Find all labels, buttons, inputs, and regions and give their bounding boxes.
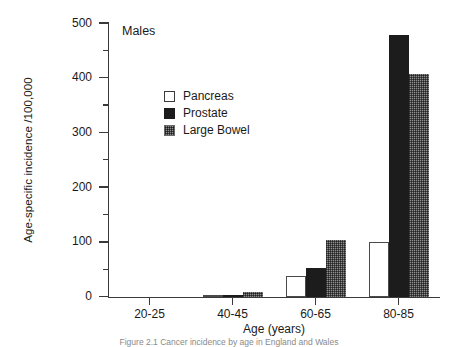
plot-area xyxy=(108,23,440,297)
legend-label-large-bowel: Large Bowel xyxy=(183,123,250,137)
y-axis-tick-major xyxy=(99,22,109,23)
x-axis-tick xyxy=(149,297,150,305)
y-axis-tick-major xyxy=(99,241,109,242)
legend-swatch-prostate xyxy=(164,108,175,119)
legend-swatch-large-bowel xyxy=(164,125,175,136)
y-axis-tick-minor xyxy=(103,104,109,105)
bar-bowel xyxy=(326,240,346,297)
y-axis-tick-minor xyxy=(103,269,109,270)
legend-item-prostate: Prostate xyxy=(164,106,250,121)
bar-bowel xyxy=(409,74,429,297)
x-axis-title: Age (years) xyxy=(108,322,440,336)
bar-pancreas xyxy=(203,295,223,297)
y-axis-tick-major xyxy=(99,186,109,187)
legend-label-pancreas: Pancreas xyxy=(183,89,234,103)
chart-legend: Pancreas Prostate Large Bowel xyxy=(164,89,250,140)
x-axis-tick-label: 40-45 xyxy=(193,307,273,321)
bar-prostate xyxy=(306,268,326,297)
x-axis-tick xyxy=(232,297,233,305)
x-axis-tick xyxy=(315,297,316,305)
y-axis-tick-major xyxy=(99,132,109,133)
y-axis-tick-label: 200 xyxy=(56,181,92,193)
y-axis-tick-label: 400 xyxy=(56,71,92,83)
x-axis-tick-label: 20-25 xyxy=(110,307,190,321)
chart-figure: Age-specific incidence /100,000 01002003… xyxy=(0,0,458,347)
y-axis-tick-major xyxy=(99,296,109,297)
x-axis-tick xyxy=(398,297,399,305)
x-axis-tick-label: 60-65 xyxy=(276,307,356,321)
y-axis-tick-labels: 0100200300400500 xyxy=(56,0,92,347)
y-axis-tick-major xyxy=(99,77,109,78)
y-axis-title: Age-specific incidence /100,000 xyxy=(22,23,40,297)
x-axis-tick-label: 80-85 xyxy=(359,307,439,321)
legend-label-prostate: Prostate xyxy=(183,106,228,120)
legend-item-large-bowel: Large Bowel xyxy=(164,123,250,138)
y-axis-tick-minor xyxy=(103,50,109,51)
legend-item-pancreas: Pancreas xyxy=(164,89,250,104)
y-axis-tick-minor xyxy=(103,214,109,215)
legend-swatch-pancreas xyxy=(164,91,175,102)
figure-caption: Figure 2.1 Cancer incidence by age in En… xyxy=(0,337,458,347)
y-axis-tick-label: 300 xyxy=(56,126,92,138)
y-axis-tick-label: 500 xyxy=(56,17,92,29)
y-axis-tick-label: 0 xyxy=(56,290,92,302)
y-axis-tick-minor xyxy=(103,159,109,160)
panel-label: Males xyxy=(122,24,155,38)
bar-bowel xyxy=(243,292,263,297)
y-axis-tick-label: 100 xyxy=(56,235,92,247)
bar-pancreas xyxy=(286,276,306,297)
bar-prostate xyxy=(389,35,409,297)
bar-pancreas xyxy=(369,242,389,297)
